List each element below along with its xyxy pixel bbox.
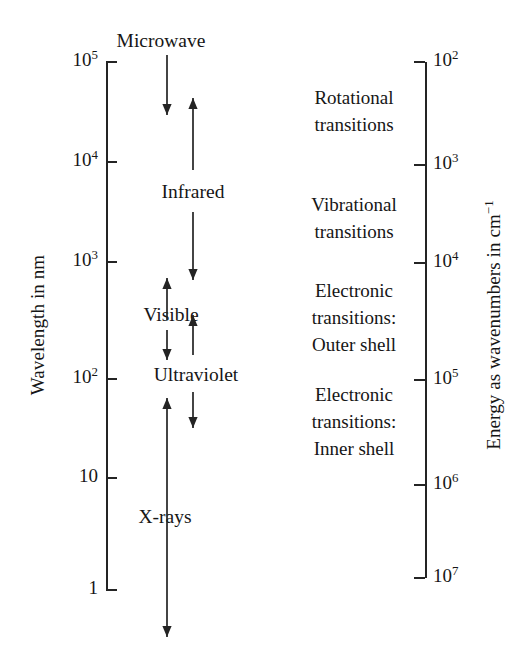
ultraviolet-down-arrow-head xyxy=(188,417,197,428)
visible-up-arrow-head xyxy=(162,278,171,289)
infrared-up-arrow-head xyxy=(188,98,197,109)
ultraviolet-up-arrow-head xyxy=(188,315,197,326)
electromagnetic-spectrum-diagram: Wavelength in nm Energy as wavenumbers i… xyxy=(0,0,526,657)
xray-double-arrow-head-down xyxy=(162,626,171,637)
microwave-down-arrow-head xyxy=(162,104,171,115)
infrared-down-arrow-head xyxy=(188,269,197,280)
spectrum-arrows-layer xyxy=(0,0,526,657)
xray-double-arrow-head-up xyxy=(162,398,171,409)
visible-down-arrow-head xyxy=(162,349,171,360)
